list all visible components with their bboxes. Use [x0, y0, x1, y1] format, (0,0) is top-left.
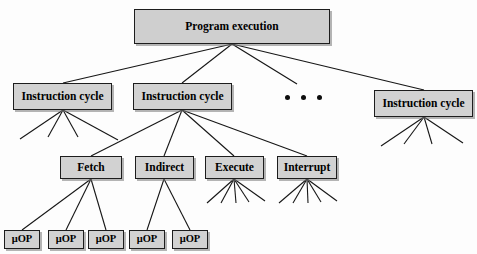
stub-line	[207, 179, 234, 203]
edge-line	[232, 44, 297, 84]
ellipsis-dot	[285, 95, 290, 100]
stub-line	[293, 179, 307, 203]
edges-fetch-to-microops	[22, 179, 106, 230]
node-instruction-cycle-2[interactable]: Instruction cycle	[133, 83, 232, 110]
edges-program-to-cycles	[63, 44, 424, 90]
node-uop-1[interactable]: μOP	[4, 230, 40, 249]
node-execute[interactable]: Execute	[205, 156, 264, 179]
stub-line	[381, 117, 424, 146]
node-interrupt[interactable]: Interrupt	[277, 156, 337, 179]
stub-line	[48, 110, 63, 137]
stub-line	[404, 117, 424, 144]
instruction-cycle-label: Instruction cycle	[141, 90, 223, 102]
node-uop-5[interactable]: μOP	[172, 230, 208, 249]
stub-line	[221, 179, 234, 203]
ellipsis-dot	[301, 95, 306, 100]
micro-op-label: μOP	[180, 234, 201, 245]
edge-line	[91, 110, 182, 156]
instruction-cycle-label: Instruction cycle	[382, 97, 464, 109]
node-program-execution-label: Program execution	[185, 20, 278, 32]
stub-line	[63, 110, 118, 140]
node-uop-4[interactable]: μOP	[129, 230, 165, 249]
edge-line	[91, 179, 106, 230]
ellipsis-dot	[317, 95, 322, 100]
node-instruction-cycle-3[interactable]: Instruction cycle	[374, 90, 473, 117]
edges-cycle-to-phases	[91, 110, 307, 156]
stub-line	[307, 179, 308, 203]
micro-op-label: μOP	[56, 234, 77, 245]
node-uop-2[interactable]: μOP	[48, 230, 84, 249]
node-instruction-cycle-1[interactable]: Instruction cycle	[13, 83, 112, 110]
phase-label: Interrupt	[284, 161, 331, 173]
stub-line	[20, 110, 63, 139]
stub-line	[424, 117, 432, 144]
node-uop-3[interactable]: μOP	[88, 230, 124, 249]
edge-line	[182, 110, 234, 156]
phase-label: Execute	[215, 161, 254, 173]
stub-line	[63, 110, 78, 137]
edge-line	[164, 110, 182, 156]
edge-line	[147, 179, 164, 230]
micro-op-label: μOP	[96, 234, 117, 245]
diagram-canvas: Program execution Instruction cycleInstr…	[0, 0, 477, 254]
stub-line	[234, 179, 249, 202]
instruction-cycle-label: Instruction cycle	[21, 90, 103, 102]
phase-label: Indirect	[145, 161, 184, 173]
edge-line	[22, 179, 91, 230]
node-fetch[interactable]: Fetch	[60, 156, 122, 179]
edge-line	[63, 44, 232, 83]
node-program-execution[interactable]: Program execution	[134, 9, 330, 44]
stub-line	[307, 179, 337, 201]
node-indirect[interactable]: Indirect	[135, 156, 194, 179]
edge-line	[232, 44, 424, 90]
edge-line	[164, 179, 190, 230]
edge-line	[182, 110, 307, 156]
stub-line	[279, 179, 307, 203]
cycles-ellipsis	[285, 95, 322, 100]
edge-line	[66, 179, 91, 230]
stub-line	[424, 117, 463, 143]
edges-indirect-to-microops	[147, 179, 190, 230]
phase-label: Fetch	[77, 161, 104, 173]
stub-line	[307, 179, 321, 202]
edge-line	[182, 44, 232, 83]
micro-op-label: μOP	[12, 234, 33, 245]
stub-line	[234, 179, 236, 203]
stub-line	[234, 179, 265, 201]
micro-op-label: μOP	[137, 234, 158, 245]
